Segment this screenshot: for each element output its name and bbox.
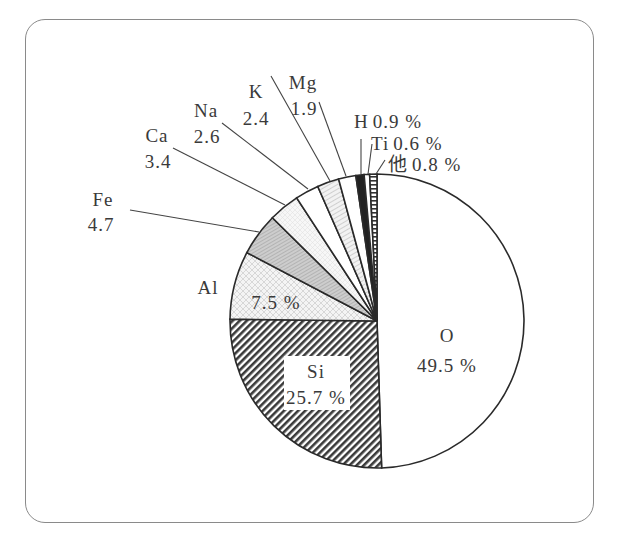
label-na-name: Na [194, 100, 218, 121]
pie-slice-O [377, 174, 524, 468]
label-k-name: K [249, 81, 264, 102]
label-si-name: Si [307, 361, 325, 382]
label-mg-value: 1.9 [291, 98, 318, 119]
label-o-name: O [440, 325, 455, 346]
label-o-value: 49.5 % [417, 355, 477, 376]
pie-chart: O 49.5 % Si 25.7 % Al 7.5 % Fe 4.7 Ca 3.… [0, 0, 621, 544]
leader-fe [130, 210, 259, 232]
pie-slices [230, 174, 524, 468]
label-si-value: 25.7 % [286, 387, 346, 408]
label-mg-name: Mg [289, 72, 317, 93]
leader-ca [173, 148, 285, 205]
label-ca-value: 3.4 [145, 151, 172, 172]
label-al-name: Al [198, 277, 219, 298]
label-al-value: 7.5 % [251, 292, 300, 313]
leader-other [376, 160, 385, 174]
label-na-value: 2.6 [194, 126, 221, 147]
label-ti: Ti0.6 % [371, 133, 443, 154]
label-fe-value: 4.7 [88, 214, 115, 235]
label-k-value: 2.4 [243, 108, 270, 129]
label-h: H0.9 % [354, 111, 422, 132]
label-fe-name: Fe [93, 189, 114, 210]
label-ca-name: Ca [145, 125, 168, 146]
leader-mg [319, 102, 346, 176]
label-other: 他0.8 % [388, 154, 461, 175]
